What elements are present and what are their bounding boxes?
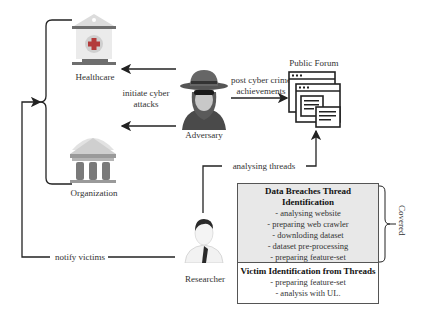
data-breaches-item: - analysing website bbox=[238, 208, 378, 219]
covered-label: Covered bbox=[397, 205, 407, 236]
post-achievements-label: post cyber crime achievements bbox=[226, 75, 296, 97]
healthcare-label: Healthcare bbox=[72, 72, 118, 83]
data-breaches-item: - dataset pre-processing bbox=[238, 241, 378, 252]
researcher-label: Researcher bbox=[178, 274, 232, 285]
forum-windows-icon bbox=[288, 71, 348, 129]
organization-label: Organization bbox=[66, 188, 122, 199]
hacker-icon bbox=[176, 66, 232, 130]
victim-identification-item: - analysis with UL. bbox=[238, 288, 378, 299]
data-breaches-thread-identification-box: Data Breaches Thread Identification - an… bbox=[237, 183, 379, 268]
victim-identification-box: Victim Identification from Threads - pre… bbox=[237, 262, 379, 304]
adversary-label: Adversary bbox=[176, 130, 232, 141]
hospital-icon bbox=[70, 12, 118, 70]
data-breaches-item: - downloding dataset bbox=[238, 230, 378, 241]
data-breaches-title: Data Breaches Thread Identification bbox=[238, 186, 378, 208]
victim-identification-item: - preparing feature-set bbox=[238, 277, 378, 288]
initiate-attacks-label: initiate cyber attacks bbox=[116, 88, 176, 110]
notify-victims-label: notify victims bbox=[52, 252, 108, 263]
data-breaches-item: - preparing web crawler bbox=[238, 219, 378, 230]
bank-building-icon bbox=[66, 128, 120, 186]
victim-identification-title: Victim Identification from Threads bbox=[238, 266, 378, 277]
researcher-icon bbox=[183, 213, 225, 263]
public-forum-label: Public Forum bbox=[284, 58, 344, 69]
analysing-threads-label: analysing threads bbox=[222, 161, 306, 172]
